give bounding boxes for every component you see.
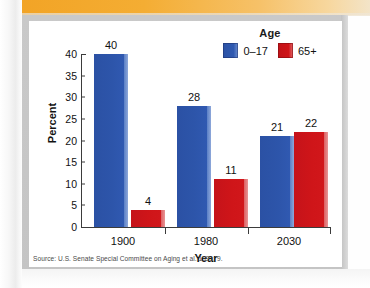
page-bottom-margin — [22, 269, 370, 288]
bar-2030-young[interactable]: 21 — [260, 136, 294, 227]
y-tick-0: 0 — [55, 221, 77, 233]
x-tick-sep-3 — [330, 227, 331, 234]
chart-figure: Age 0–17 65+ Percent 40 35 30 25 20 15 1… — [0, 0, 370, 288]
bar-value-2030-old: 22 — [294, 117, 328, 129]
bar-value-1900-young: 40 — [94, 39, 128, 51]
y-tick-10: 10 — [55, 178, 77, 190]
y-tick-25: 25 — [55, 113, 77, 125]
x-category-1980: 1980 — [194, 235, 218, 247]
bar-group-2030: 21 22 — [256, 54, 331, 227]
bar-value-2030-young: 21 — [260, 121, 294, 133]
bar-series-container: 40 4 28 11 — [82, 54, 331, 227]
x-category-1900: 1900 — [111, 235, 135, 247]
y-axis-ticks: 40 35 30 25 20 15 10 5 0 — [53, 21, 77, 267]
y-tick-5: 5 — [55, 199, 77, 211]
bar-1980-young[interactable]: 28 — [177, 106, 211, 227]
source-note: Source: U.S. Senate Special Committee on… — [33, 255, 333, 262]
bar-value-1980-old: 11 — [214, 164, 248, 176]
x-category-2030: 2030 — [277, 235, 301, 247]
y-tick-40: 40 — [55, 48, 77, 60]
bar-2030-old[interactable]: 22 — [294, 132, 328, 227]
bar-1980-old[interactable]: 11 — [214, 179, 248, 227]
bar-1900-old[interactable]: 4 — [131, 210, 165, 227]
bar-group-1980: 28 11 — [173, 54, 248, 227]
x-tick-sep-1 — [165, 227, 166, 234]
y-tick-15: 15 — [55, 156, 77, 168]
plot-area: Percent 40 35 30 25 20 15 10 5 0 — [29, 21, 342, 267]
y-tick-20: 20 — [55, 135, 77, 147]
bar-group-1900: 40 4 — [90, 54, 165, 227]
page-left-margin — [0, 0, 22, 288]
y-tick-30: 30 — [55, 91, 77, 103]
bar-value-1900-old: 4 — [131, 195, 165, 207]
x-tick-sep-2 — [248, 227, 249, 234]
y-tick-35: 35 — [55, 70, 77, 82]
figure-frame-right-edge — [341, 15, 348, 273]
bar-value-1980-young: 28 — [177, 91, 211, 103]
bar-1900-young[interactable]: 40 — [94, 54, 128, 227]
